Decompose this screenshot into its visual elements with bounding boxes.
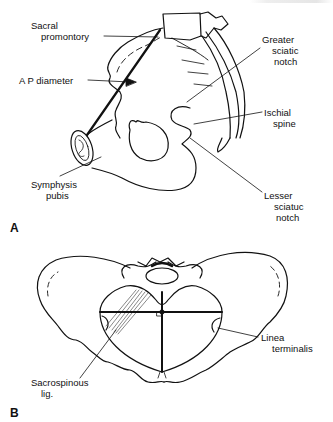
label-ischial-spine-line1: Ischial (264, 107, 291, 118)
label-lesser-sciatic-line1: Lesser (264, 190, 293, 201)
label-linea-terminalis-line2: terminalis (272, 343, 313, 354)
panel-letter-a: A (10, 221, 19, 235)
panel-a-pelvis-lateral (67, 12, 245, 191)
label-lesser-sciatic-line2: sciatuc (274, 201, 304, 212)
label-linea-terminalis-line1: Linea (261, 332, 284, 343)
label-symphysis-line2: pubis (46, 190, 69, 201)
label-greater-sciatic-line2: sciatic (272, 45, 298, 56)
label-greater-sciatic-line1: Greater (262, 34, 294, 45)
label-sacrospinous-line2: lig. (41, 388, 53, 399)
label-ischial-spine-line2: spine (273, 118, 296, 129)
label-lesser-sciatic-line3: notch (276, 212, 299, 223)
panel-letter-b: B (10, 406, 19, 420)
panel-a-leader-lines (60, 36, 262, 192)
label-symphysis-line1: Symphysis (31, 179, 77, 190)
label-sacral-promontory-line2: promontory (41, 31, 89, 42)
label-ap-diameter: A P diameter (19, 75, 73, 86)
label-sacral-promontory-line1: Sacral (31, 20, 58, 31)
label-greater-sciatic-line3: notch (274, 56, 297, 67)
label-sacrospinous-line1: Sacrospinous (31, 377, 89, 388)
